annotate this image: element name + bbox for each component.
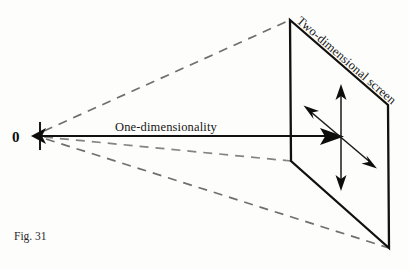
perspective-ray-upper bbox=[44, 20, 290, 131]
origin-label: 0 bbox=[12, 129, 20, 145]
two-dimensional-screen-label: Two-dimensional screen bbox=[294, 14, 399, 108]
perspective-ray-middle bbox=[44, 137, 291, 161]
one-dimensionality-label: One-dimensionality bbox=[115, 120, 218, 134]
figure-canvas: 0 One-dimensionality Two-dimensional scr… bbox=[0, 0, 409, 269]
figure-caption: Fig. 31 bbox=[14, 230, 47, 243]
perspective-diagram: 0 One-dimensionality Two-dimensional scr… bbox=[0, 0, 409, 269]
perspective-ray-lower bbox=[46, 139, 389, 248]
